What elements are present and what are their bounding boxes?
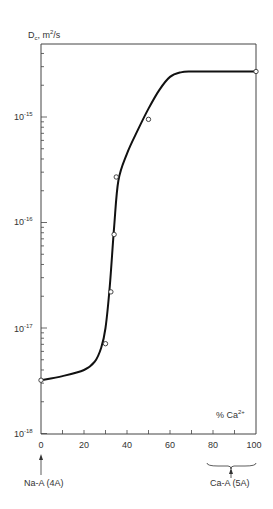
data-point-marker bbox=[114, 175, 118, 179]
data-point-marker bbox=[146, 117, 150, 121]
y-tick-labels: 10-15 10-16 10-17 10-18 bbox=[14, 111, 33, 439]
ca-a-label: Ca-A (5A) bbox=[210, 478, 250, 488]
data-points bbox=[39, 69, 258, 382]
ca-a-annotation: Ca-A (5A) bbox=[207, 463, 256, 488]
x-tick-label: 20 bbox=[79, 440, 89, 450]
y-axis-label: Dc, m2/s bbox=[28, 29, 61, 41]
chart: Dc, m2/s 10-15 10-16 10-17 10-18 0 20 40… bbox=[0, 0, 273, 509]
data-point-marker bbox=[39, 378, 43, 382]
y-tick-label: 10-16 bbox=[14, 216, 33, 227]
x-tick-label: 0 bbox=[38, 440, 43, 450]
x-tick-label: 100 bbox=[246, 440, 261, 450]
x-tick-label: 80 bbox=[208, 440, 218, 450]
y-tick-label: 10-15 bbox=[14, 111, 33, 122]
na-a-label: Na-A (4A) bbox=[24, 478, 64, 488]
data-point-marker bbox=[109, 290, 113, 294]
na-a-annotation: Na-A (4A) bbox=[24, 454, 64, 488]
x-axis-label: % Ca2+ bbox=[216, 409, 245, 420]
y-tick-label: 10-18 bbox=[14, 428, 33, 439]
x-axis-ticks bbox=[63, 430, 235, 434]
x-tick-label: 60 bbox=[165, 440, 175, 450]
data-point-marker bbox=[112, 232, 116, 236]
x-tick-labels: 0 20 40 60 80 100 bbox=[38, 440, 261, 450]
data-point-marker bbox=[103, 341, 107, 345]
plot-frame bbox=[41, 44, 256, 434]
x-tick-label: 40 bbox=[122, 440, 132, 450]
y-axis-ticks bbox=[41, 53, 47, 433]
data-point-marker bbox=[254, 69, 258, 73]
y-tick-label: 10-17 bbox=[14, 323, 33, 334]
